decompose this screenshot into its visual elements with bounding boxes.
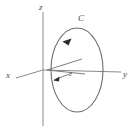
x-axis-label: x (6, 71, 10, 80)
radius-label: 2 (69, 71, 72, 77)
radius-line-upper (47, 59, 82, 70)
y-axis-label: y (123, 70, 127, 79)
diagram-svg (0, 0, 133, 130)
radius-arrowhead (54, 77, 60, 82)
figure-3d-coordinate-diagram: z x y C 2 (0, 0, 133, 130)
curve-c-label: C (78, 14, 84, 23)
x-axis-line (16, 70, 43, 78)
curve-orientation-arrowhead (63, 39, 72, 46)
z-axis-label: z (39, 3, 43, 12)
